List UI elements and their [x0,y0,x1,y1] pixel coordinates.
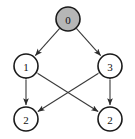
node-label-n2a: 2 [23,114,29,126]
node-layer: 01322 [14,7,122,131]
node-label-n1: 1 [23,61,29,73]
graph-node-n3[interactable]: 3 [98,54,122,78]
node-label-n3: 3 [107,61,113,73]
graph-node-n2b[interactable]: 2 [98,107,122,131]
node-label-n2b: 2 [107,114,113,126]
directed-graph: 01322 [0,0,135,139]
graph-node-n1[interactable]: 1 [14,54,38,78]
edge-layer [26,28,110,111]
diagram-canvas: 01322 [0,0,135,139]
graph-node-n2a[interactable]: 2 [14,107,38,131]
graph-node-n0[interactable]: 0 [56,7,80,31]
node-label-n0: 0 [65,14,71,26]
edge-n0-to-n1 [35,28,59,55]
edge-n0-to-n3 [76,28,100,55]
